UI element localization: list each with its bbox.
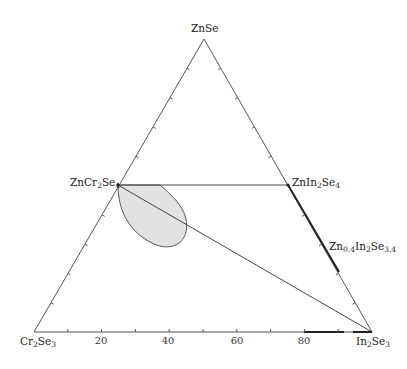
label-sub: 3: [385, 340, 390, 349]
label-part: In: [356, 335, 367, 347]
label-zn04in2se34: Zn0.4In2Se3.4: [329, 240, 396, 254]
label-cr2se3: Cr2Se3: [20, 335, 56, 349]
label-part: In: [355, 240, 366, 252]
label-part: Cr: [20, 335, 33, 347]
tick-label-40: 40: [162, 335, 175, 346]
label-sub: 3: [51, 340, 56, 349]
label-sub: 4: [115, 181, 120, 190]
label-znse: ZnSe: [191, 22, 218, 34]
thick-segment-right-edge: [288, 185, 339, 272]
label-part: ZnIn: [292, 176, 317, 188]
label-part: Se: [38, 335, 51, 347]
label-znse-text: ZnSe: [191, 22, 218, 34]
label-part: Zn: [329, 240, 343, 252]
label-in2se3: In2Se3: [356, 335, 390, 349]
label-part: Se: [102, 176, 115, 188]
tick-label-60: 60: [231, 335, 244, 346]
label-zncr2se4: ZnCr2Se4: [70, 176, 120, 190]
label-sub: 4: [335, 181, 340, 190]
tick-label-20: 20: [95, 335, 108, 346]
label-part: Se: [322, 176, 335, 188]
label-znin2se4: ZnIn2Se4: [292, 176, 340, 190]
label-sub: 3.4: [384, 245, 396, 254]
tick-label-80: 80: [298, 335, 311, 346]
ternary-diagram: [0, 0, 407, 369]
solid-solution-region: [118, 185, 187, 247]
label-sub: 0.4: [343, 245, 355, 254]
label-part: ZnCr: [70, 176, 97, 188]
tie-line-zncr2se4-in2se3: [118, 185, 372, 332]
label-part: Se: [371, 240, 384, 252]
label-part: Se: [372, 335, 385, 347]
point-znin2se4: [286, 183, 289, 186]
